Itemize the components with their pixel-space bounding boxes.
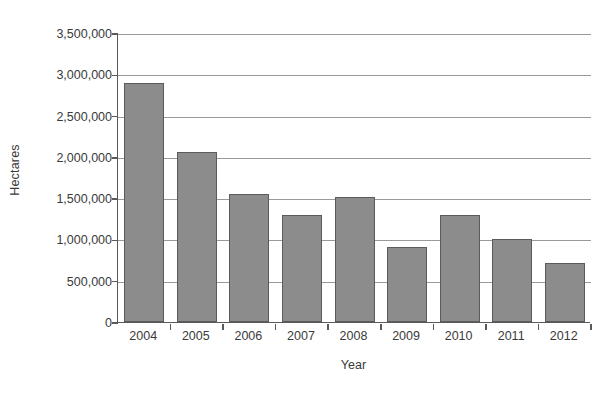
y-axis-tick-label: 500,000 xyxy=(34,275,112,288)
y-axis-tick-label: 2,500,000 xyxy=(34,110,112,123)
y-axis-tick-mark xyxy=(112,240,118,242)
x-axis-tick-mark xyxy=(222,324,224,330)
bar-2009 xyxy=(387,247,427,322)
x-axis-tick-label: 2004 xyxy=(129,330,157,343)
y-axis-title: Hectares xyxy=(0,0,30,340)
y-axis-tick-label: 1,000,000 xyxy=(34,234,112,247)
bar-2011 xyxy=(492,239,532,322)
y-axis-tick-label: 1,500,000 xyxy=(34,193,112,206)
x-axis-tick-mark xyxy=(590,324,592,330)
y-axis-tick-mark xyxy=(112,33,118,35)
bar-2006 xyxy=(229,194,269,322)
x-axis-tick-label: 2007 xyxy=(287,330,315,343)
x-axis-tick-label: 2006 xyxy=(234,330,262,343)
x-axis-tick-mark xyxy=(380,324,382,330)
x-axis-tick-label: 2011 xyxy=(498,330,525,343)
x-axis-tick-label: 2005 xyxy=(182,330,210,343)
x-axis-tick-labels: 200420052006200720082009201020112012 xyxy=(117,330,590,352)
y-axis-tick-labels: 0500,0001,000,0001,500,0002,000,0002,500… xyxy=(34,0,112,396)
x-axis-tick-mark xyxy=(433,324,435,330)
x-axis-tick-mark xyxy=(485,324,487,330)
y-axis-tick-mark xyxy=(112,198,118,200)
bar-2012 xyxy=(545,263,585,322)
gridline xyxy=(118,117,591,118)
y-axis-tick-mark xyxy=(112,281,118,283)
bar-2004 xyxy=(124,83,164,322)
bar-2005 xyxy=(177,152,217,322)
gridline xyxy=(118,75,591,76)
y-axis-tick-mark xyxy=(112,75,118,77)
x-axis-tick-mark xyxy=(275,324,277,330)
x-axis-tick-mark xyxy=(327,324,329,330)
plot-area xyxy=(117,34,590,323)
x-axis-tick-label: 2008 xyxy=(340,330,368,343)
y-axis-tick-label: 3,500,000 xyxy=(34,28,112,41)
x-axis-tick-label: 2010 xyxy=(445,330,473,343)
bar-2008 xyxy=(335,197,375,323)
bar-2010 xyxy=(440,215,480,322)
x-axis-tick-mark xyxy=(170,324,172,330)
x-axis-tick-mark xyxy=(538,324,540,330)
y-axis-tick-label: 0 xyxy=(34,317,112,330)
x-axis-title: Year xyxy=(117,358,590,372)
x-axis-tick-label: 2012 xyxy=(550,330,578,343)
y-axis-tick-mark xyxy=(112,322,118,324)
gridline xyxy=(118,34,591,35)
y-axis-tick-label: 2,000,000 xyxy=(34,152,112,165)
bar-2007 xyxy=(282,215,322,322)
y-axis-tick-label: 3,000,000 xyxy=(34,69,112,82)
x-axis-tick-label: 2009 xyxy=(392,330,420,343)
y-axis-tick-mark xyxy=(112,116,118,118)
bar-chart-figure: Hectares 0500,0001,000,0001,500,0002,000… xyxy=(0,0,611,396)
y-axis-tick-mark xyxy=(112,157,118,159)
